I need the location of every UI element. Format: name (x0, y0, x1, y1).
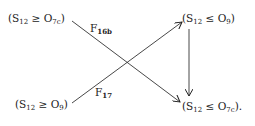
node-bottom-right: (S12 ≤ O7c). (182, 100, 242, 116)
node-top-right: (S12 ≤ O9) (182, 12, 235, 28)
node-top-left: (S12 ≥ O7c) (8, 12, 65, 28)
edge-label-f17: F17 (95, 86, 112, 100)
node-bottom-left: (S12 ≥ O9) (15, 98, 68, 114)
commutative-diagram: (S12 ≥ O7c) (S12 ≤ O9) (S12 ≥ O9) (S12 ≤… (0, 0, 255, 126)
edge-tl-br (72, 21, 180, 102)
edge-label-f16b: F16b (90, 22, 112, 36)
